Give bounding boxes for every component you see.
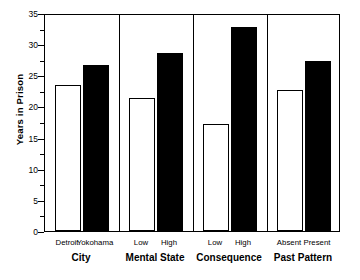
- y-tick-label: 20: [29, 102, 38, 112]
- y-tick-label: 25: [29, 71, 38, 81]
- group-label-past-pattern: Past Pattern: [274, 252, 332, 263]
- y-tick-label: 15: [29, 134, 38, 144]
- bar-mental-state-low: [129, 98, 155, 231]
- category-label: Detroit: [56, 238, 79, 247]
- category-label: Low: [134, 238, 148, 247]
- group-separator: [119, 15, 120, 231]
- bar-past-pattern-absent: [277, 90, 303, 231]
- bar-consequence-high: [231, 27, 257, 231]
- y-tick-label: 35: [29, 9, 38, 19]
- y-tick-major: [38, 232, 44, 233]
- group-separator: [193, 15, 194, 231]
- category-label: Low: [208, 238, 222, 247]
- group-label-consequence: Consequence: [196, 252, 262, 263]
- y-axis-tick-labels: 05101520253035: [0, 14, 38, 232]
- category-label: High: [161, 238, 177, 247]
- category-label: High: [235, 238, 251, 247]
- category-label: Absent: [277, 238, 301, 247]
- group-separator: [267, 15, 268, 231]
- bar-mental-state-high: [157, 53, 183, 231]
- category-label: Present: [304, 238, 331, 247]
- plot-area: [44, 14, 340, 232]
- bar-past-pattern-present: [305, 61, 331, 231]
- bar-consequence-low: [203, 124, 229, 231]
- bar-city-yokohama: [83, 65, 109, 231]
- y-tick-label: 30: [29, 40, 38, 50]
- group-label-city: City: [72, 252, 91, 263]
- chart-figure: Years in Prison 05101520253035 DetroitYo…: [0, 0, 360, 280]
- bar-city-detroit: [55, 85, 81, 231]
- category-label: Yokohama: [77, 238, 114, 247]
- group-label-mental-state: Mental State: [126, 252, 185, 263]
- y-tick-label: 10: [29, 165, 38, 175]
